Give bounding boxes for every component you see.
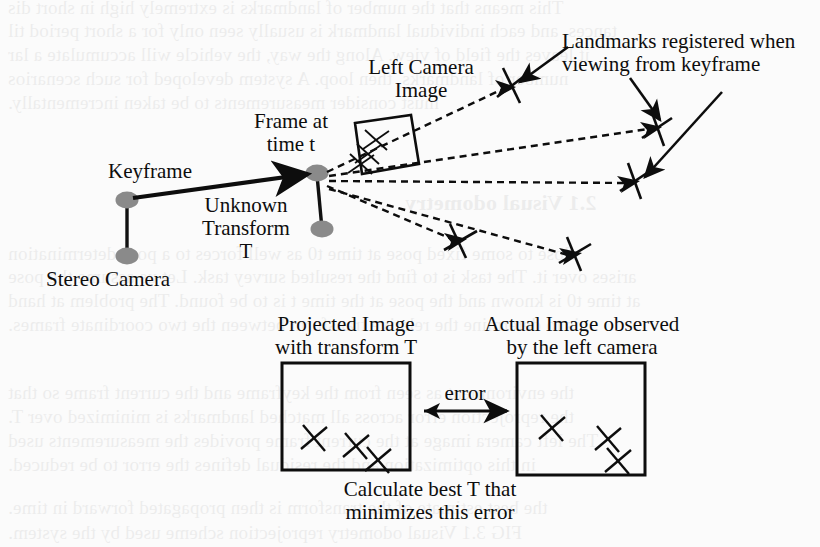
label-stereo-camera: Stereo Camera — [46, 268, 170, 290]
projected-image-box — [282, 363, 410, 473]
label-actual-image-line2: by the left camera — [472, 336, 692, 358]
label-unknown-transform-line1: Unknown — [176, 194, 316, 216]
label-error: error — [422, 382, 508, 404]
landmark-ray-heads — [444, 80, 662, 265]
label-left-camera-image-line1: Left Camera — [346, 56, 496, 78]
label-calculate-line1: Calculate best T that — [300, 478, 560, 500]
error-arrow — [424, 403, 507, 419]
label-calculate-line2: minimizes this error — [300, 501, 560, 523]
label-projected-image-line2: with transform T — [256, 336, 436, 358]
label-unknown-transform-line3: T — [176, 240, 316, 262]
label-left-camera-image-line2: Image — [346, 79, 496, 101]
label-actual-image-line1: Actual Image observed — [472, 313, 692, 335]
label-landmarks-line2: viewing from keyframe — [562, 53, 760, 75]
label-landmarks-line1: Landmarks registered when — [562, 30, 795, 52]
label-projected-image-line1: Projected Image — [256, 313, 436, 335]
label-frame-at-line1: Frame at — [236, 110, 346, 132]
keyframe-stereo-camera — [116, 192, 139, 265]
actual-image-features — [539, 415, 631, 474]
label-keyframe: Keyframe — [108, 160, 192, 182]
label-frame-at-line2: time t — [236, 133, 346, 155]
label-unknown-transform-line2: Transform — [176, 217, 316, 239]
actual-image-box — [517, 363, 645, 475]
projected-image-features — [301, 425, 391, 473]
figure-canvas: This means that the number of landmarks … — [0, 0, 820, 547]
